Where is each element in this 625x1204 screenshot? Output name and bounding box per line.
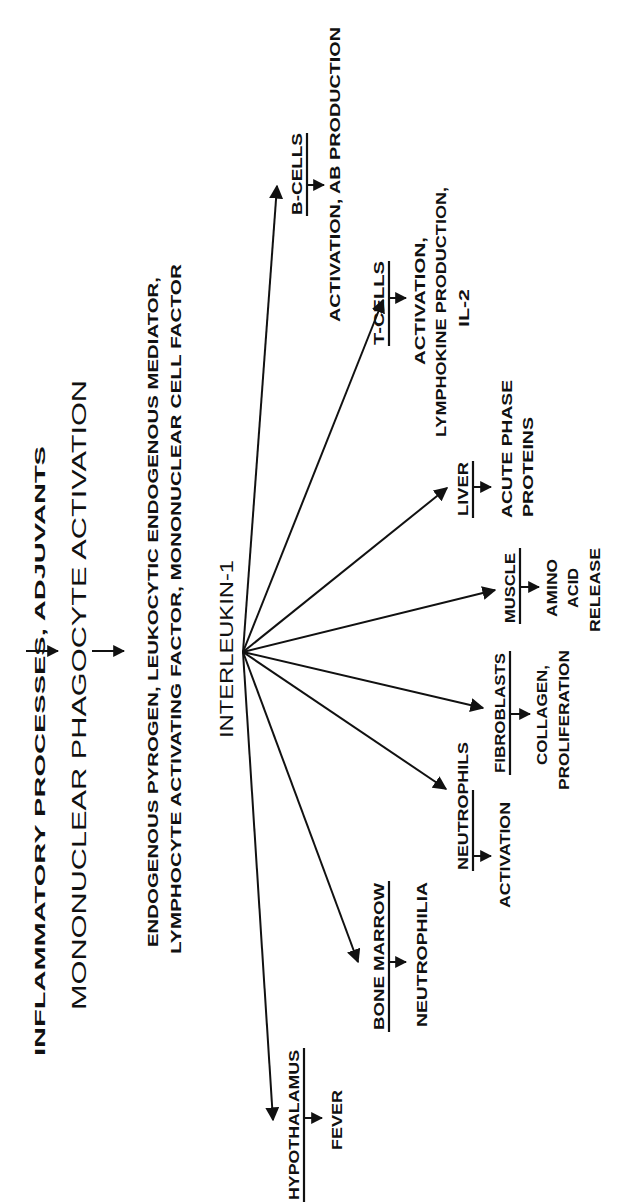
target-effect: ACTIVATION, AB PRODUCTION xyxy=(327,27,343,322)
target-name: B-CELLS xyxy=(289,133,305,215)
target-hypothalamus: HYPOTHALAMUS FEVER xyxy=(286,1048,345,1202)
target-effect: ACTIVATION xyxy=(497,802,513,908)
source-text: INFLAMMATORY PROCESSES, ADJUVANTS xyxy=(32,445,48,1056)
target-effect: FEVER xyxy=(329,1090,345,1150)
target-name: HYPOTHALAMUS xyxy=(286,1050,302,1200)
synonyms-text-1: ENDOGENOUS PYROGEN, LEUKOCYTIC ENDOGENOU… xyxy=(145,277,161,947)
target-effect-line-1: COLLAGEN, xyxy=(534,665,550,765)
target-effect: NEUTROPHILIA xyxy=(414,882,430,1027)
synonyms-text-2: LYMPHOCYTE ACTIVATING FACTOR, MONONUCLEA… xyxy=(168,264,184,954)
target-muscle: MUSCLE AMINO ACID RELEASE xyxy=(502,548,603,632)
target-bone-marrow: BONE MARROW NEUTROPHILIA xyxy=(371,881,430,1032)
target-name: T-CELLS xyxy=(371,261,387,345)
target-t-cells: T-CELLS ACTIVATION, LYMPHOKINE PRODUCTIO… xyxy=(371,187,472,437)
target-name: BONE MARROW xyxy=(371,882,387,1030)
target-effect-line-1: ACUTE PHASE xyxy=(499,380,515,518)
target-effect-line-1: AMINO xyxy=(544,559,560,617)
target-effect-line-3: RELEASE xyxy=(587,548,603,632)
target-effect-line-3: IL-2 xyxy=(456,289,472,327)
target-name: LIVER xyxy=(455,462,471,516)
target-fibroblasts: FIBROBLASTS COLLAGEN, PROLIFERATION xyxy=(492,650,572,790)
arrow-to-neutrophils xyxy=(243,652,446,789)
arrow-to-b-cells xyxy=(243,186,277,652)
activation-text: MONONUCLEAR PHAGOCYTE ACTIVATION xyxy=(68,380,90,1010)
target-name: NEUTROPHILS xyxy=(455,742,471,870)
target-name: MUSCLE xyxy=(502,553,518,623)
target-effect-line-2: LYMPHOKINE PRODUCTION, xyxy=(433,187,449,437)
target-effect-line-2: ACID xyxy=(565,568,581,608)
target-liver: LIVER ACUTE PHASE PROTEINS xyxy=(455,380,536,518)
hub-label: INTERLEUKIN-1 xyxy=(216,560,237,738)
arrow-to-fibroblasts xyxy=(243,652,483,708)
target-name: FIBROBLASTS xyxy=(492,653,508,773)
interleukin-diagram: INFLAMMATORY PROCESSES, ADJUVANTS MONONU… xyxy=(0,0,625,1204)
target-b-cells: B-CELLS ACTIVATION, AB PRODUCTION xyxy=(289,27,343,322)
target-effect-line-2: PROLIFERATION xyxy=(556,650,572,790)
target-effect-line-1: ACTIVATION, xyxy=(412,237,428,365)
target-effect-line-2: PROTEINS xyxy=(520,417,536,517)
